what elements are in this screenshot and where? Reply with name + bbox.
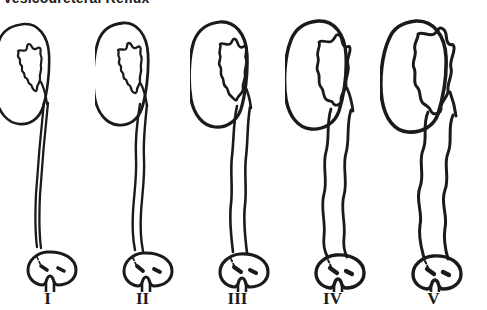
ureter-left-wall-ii bbox=[133, 104, 140, 250]
ureter-left-wall-v bbox=[418, 112, 428, 258]
reflux-grade-panel-v: V bbox=[380, 12, 487, 310]
vesicoureteral-reflux-figure: Vesicoureteral Reflux bbox=[0, 0, 487, 310]
grade-iii-anatomy-diagram bbox=[190, 12, 285, 292]
grade-label-iv: IV bbox=[285, 290, 380, 308]
reflux-grade-panels: I II bbox=[0, 12, 487, 310]
ureteral-orifice-right-iii bbox=[250, 270, 256, 273]
grade-label-i: I bbox=[0, 290, 95, 308]
kidney-outline-iv bbox=[285, 21, 346, 129]
grade-ii-anatomy-diagram bbox=[95, 12, 190, 292]
ureter-right-wall-iii bbox=[244, 107, 250, 253]
calyces-ii bbox=[118, 43, 142, 93]
grade-label-v: V bbox=[380, 290, 487, 308]
reflux-grade-panel-iii: III bbox=[190, 12, 285, 310]
ureter-right-wall-v bbox=[443, 115, 453, 259]
ureteral-orifice-right-v bbox=[443, 272, 449, 275]
ureter-right-wall-iv bbox=[343, 110, 351, 257]
ureteral-orifice-right-i bbox=[58, 268, 64, 271]
calyces-i bbox=[18, 44, 42, 91]
kidney-outline-iii bbox=[190, 22, 247, 127]
ureteral-orifice-right-ii bbox=[154, 269, 160, 272]
ureter-left-wall-iii bbox=[230, 106, 237, 252]
renal-pelvis-iii bbox=[245, 86, 251, 108]
renal-pelvis-v bbox=[450, 92, 456, 116]
calyces-iii bbox=[219, 39, 247, 100]
bladder-outline-ii bbox=[124, 253, 172, 286]
grade-v-anatomy-diagram bbox=[380, 12, 487, 292]
reflux-grade-panel-i: I bbox=[0, 12, 95, 310]
ureter-left-wall-iv bbox=[323, 109, 331, 256]
ureter-right-wall-ii bbox=[141, 105, 147, 251]
calyces-v bbox=[413, 28, 454, 114]
grade-label-iii: III bbox=[190, 290, 285, 308]
bladder-outline-i bbox=[28, 252, 76, 285]
bladder-outline-iv bbox=[316, 255, 364, 288]
ureteral-orifice-right-iv bbox=[346, 271, 352, 274]
reflux-grade-panel-ii: II bbox=[95, 12, 190, 310]
reflux-grade-panel-iv: IV bbox=[285, 12, 380, 310]
grade-label-ii: II bbox=[95, 290, 190, 308]
bladder-outline-iii bbox=[220, 254, 268, 287]
grade-iv-anatomy-diagram bbox=[285, 12, 380, 292]
figure-title: Vesicoureteral Reflux bbox=[3, 0, 150, 5]
bladder-outline-v bbox=[413, 256, 461, 289]
renal-pelvis-iv bbox=[347, 88, 353, 111]
grade-i-anatomy-diagram bbox=[0, 12, 95, 292]
